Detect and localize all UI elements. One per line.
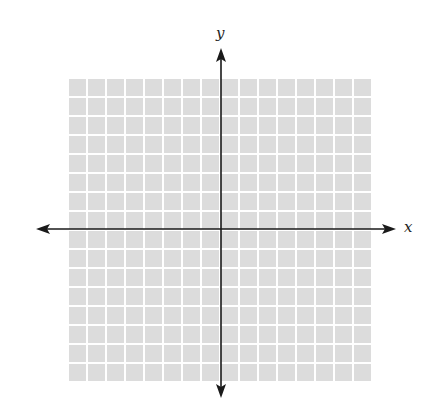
grid-cell xyxy=(145,345,162,362)
coordinate-plane-graphic xyxy=(0,0,436,413)
grid-cell xyxy=(88,155,105,172)
grid-cell xyxy=(69,174,86,191)
grid-cell xyxy=(354,326,371,343)
grid-cell xyxy=(240,98,257,115)
grid-cell xyxy=(145,136,162,153)
grid-cell xyxy=(278,117,295,134)
grid-cell xyxy=(107,326,124,343)
grid-cell xyxy=(354,98,371,115)
grid-cell xyxy=(221,364,238,381)
grid-cell xyxy=(145,288,162,305)
grid-cell xyxy=(240,212,257,229)
grid-cell xyxy=(126,98,143,115)
grid-cell xyxy=(202,79,219,96)
grid-cell xyxy=(354,364,371,381)
grid-cell xyxy=(278,250,295,267)
grid-cell xyxy=(183,136,200,153)
grid-cell xyxy=(221,193,238,210)
grid-cell xyxy=(88,79,105,96)
grid-cell xyxy=(69,269,86,286)
grid-cell xyxy=(107,288,124,305)
grid-cell xyxy=(297,98,314,115)
grid-cell xyxy=(107,136,124,153)
grid-cell xyxy=(221,307,238,324)
grid-cell xyxy=(316,193,333,210)
grid-cell xyxy=(335,288,352,305)
grid-cell xyxy=(316,79,333,96)
grid-cell xyxy=(259,117,276,134)
grid-cell xyxy=(278,174,295,191)
grid-cell xyxy=(297,117,314,134)
grid-cell xyxy=(126,250,143,267)
grid-cell xyxy=(278,345,295,362)
grid-cell xyxy=(240,193,257,210)
grid-cell xyxy=(297,212,314,229)
grid-cell xyxy=(259,79,276,96)
grid-cell xyxy=(259,288,276,305)
grid-cell xyxy=(202,136,219,153)
grid-cell xyxy=(69,288,86,305)
grid-cell xyxy=(164,269,181,286)
grid-cell xyxy=(259,307,276,324)
grid-cell xyxy=(259,364,276,381)
grid-cell xyxy=(297,231,314,248)
grid-cell xyxy=(240,250,257,267)
grid-cell xyxy=(88,117,105,134)
grid-cell xyxy=(145,326,162,343)
grid-cell xyxy=(126,136,143,153)
grid-cell xyxy=(335,345,352,362)
grid-cell xyxy=(354,174,371,191)
grid-cell xyxy=(259,212,276,229)
grid-cell xyxy=(69,136,86,153)
grid-cell xyxy=(335,79,352,96)
grid-cell xyxy=(69,117,86,134)
grid-cell xyxy=(69,307,86,324)
grid-cell xyxy=(107,98,124,115)
grid-cell xyxy=(145,231,162,248)
grid-cell xyxy=(164,345,181,362)
grid-cell xyxy=(107,231,124,248)
grid-cell xyxy=(335,136,352,153)
grid-cell xyxy=(221,212,238,229)
grid-cell xyxy=(145,212,162,229)
grid-cell xyxy=(126,79,143,96)
grid-cell xyxy=(221,231,238,248)
grid-cell xyxy=(354,231,371,248)
grid-cell xyxy=(335,326,352,343)
grid-cell xyxy=(297,193,314,210)
grid-cell xyxy=(107,155,124,172)
grid-cell xyxy=(240,117,257,134)
grid-cell xyxy=(202,288,219,305)
grid-cell xyxy=(126,364,143,381)
grid-cell xyxy=(259,326,276,343)
grid-cell xyxy=(202,269,219,286)
grid-cell xyxy=(221,79,238,96)
grid-cell xyxy=(145,307,162,324)
grid-cell xyxy=(335,307,352,324)
grid-cell xyxy=(335,174,352,191)
grid-cell xyxy=(145,79,162,96)
grid-cell xyxy=(259,231,276,248)
grid-cell xyxy=(126,269,143,286)
grid-cell xyxy=(335,364,352,381)
grid-cell xyxy=(164,212,181,229)
grid-cell xyxy=(297,250,314,267)
grid-cell xyxy=(145,98,162,115)
grid-cell xyxy=(202,364,219,381)
grid-cell xyxy=(354,79,371,96)
grid-cell xyxy=(316,174,333,191)
x-axis-label: x xyxy=(404,220,412,235)
grid-cell xyxy=(183,174,200,191)
grid-cell xyxy=(259,345,276,362)
grid-cell xyxy=(69,326,86,343)
grid-cell xyxy=(202,193,219,210)
grid-cell xyxy=(126,193,143,210)
grid-cell xyxy=(278,288,295,305)
grid-cell xyxy=(297,269,314,286)
grid-cell xyxy=(69,79,86,96)
grid-cell xyxy=(240,326,257,343)
grid-cell xyxy=(316,155,333,172)
grid-cell xyxy=(221,250,238,267)
grid-cell xyxy=(202,307,219,324)
grid-cell xyxy=(88,174,105,191)
